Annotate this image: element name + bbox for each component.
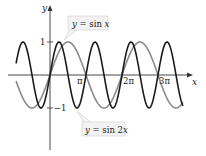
x-tick-label-pi: π	[77, 76, 83, 86]
callout-sin-2x: y = sin 2x	[77, 111, 128, 136]
x-axis-label: x	[192, 77, 197, 87]
callout-sin-x: y = sin x	[64, 16, 110, 40]
y-axis-arrow-icon	[48, 5, 53, 11]
x-tick-label-3pi: 3π	[159, 76, 170, 86]
callout-sin-2x-text: y = sin 2x	[84, 125, 128, 135]
y-tick-label-neg1: −1	[54, 103, 67, 113]
y-tick-label-1: 1	[40, 37, 45, 47]
callout-sin-x-text: y = sin x	[71, 19, 110, 29]
y-axis-label: y	[41, 3, 48, 13]
sine-comparison-chart: y x 1 −1 π 2π 3π y = sin x y = sin 2x	[0, 0, 206, 156]
x-tick-label-2pi: 2π	[123, 76, 134, 86]
